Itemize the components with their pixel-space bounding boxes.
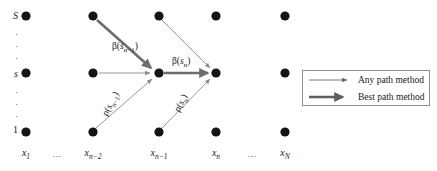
legend-label-any-path: Any path method xyxy=(355,75,424,85)
state-sub: n xyxy=(184,61,188,69)
y-axis-label-top: S xyxy=(0,11,18,21)
node xyxy=(88,127,97,136)
y-axis-dots-lower: · xyxy=(0,88,18,97)
node xyxy=(154,127,163,136)
node xyxy=(211,68,220,77)
x-axis-label-xn1: xn−1 xyxy=(139,148,179,161)
node xyxy=(88,68,97,77)
x-axis-ellipsis-left: … xyxy=(42,150,72,159)
greek-symbol: β xyxy=(172,56,177,66)
x-axis-ellipsis-right: … xyxy=(237,150,267,159)
x-axis-ellipsis-text: … xyxy=(248,149,257,159)
state-sub: n−1 xyxy=(124,46,135,54)
edge-label-beta-n-minus-1: β(sn−1) xyxy=(112,42,138,54)
node xyxy=(154,68,163,77)
legend-swatch-any-path xyxy=(307,73,355,87)
y-axis-dots-upper: · xyxy=(0,54,18,63)
node xyxy=(21,68,30,77)
y-axis-dots-lower: · xyxy=(0,100,18,109)
x-axis-label-xN: xN xyxy=(265,148,305,161)
legend: Any path method Best path method xyxy=(302,70,430,106)
x-axis-label-xn: xn xyxy=(196,148,236,161)
trellis-nodes xyxy=(21,11,289,136)
node xyxy=(280,127,289,136)
greek-symbol: β xyxy=(112,41,117,51)
legend-swatch-best-path xyxy=(307,90,355,104)
node xyxy=(211,11,220,20)
node xyxy=(280,68,289,77)
x-axis-ellipsis-text: … xyxy=(53,149,62,159)
x-axis-label-sub: n−2 xyxy=(89,152,102,161)
x-axis-label-sub: 1 xyxy=(26,152,30,161)
x-axis-label-sub: n xyxy=(216,152,220,161)
x-axis-label-sub: n−1 xyxy=(155,152,168,161)
node xyxy=(211,127,220,136)
x-axis-label-xn2: xn−2 xyxy=(73,148,113,161)
y-axis-label-bottom: 1 xyxy=(0,125,18,135)
node xyxy=(21,11,30,20)
node xyxy=(154,11,163,20)
y-axis-dots-upper: · xyxy=(0,42,18,51)
node xyxy=(280,11,289,20)
node xyxy=(88,11,97,20)
legend-label-best-path: Best path method xyxy=(355,92,425,102)
y-axis-label-middle: s xyxy=(0,69,18,79)
x-axis-label-x1: x1 xyxy=(6,148,46,161)
y-axis-dots-upper: · xyxy=(0,30,18,39)
legend-item-best-path: Best path method xyxy=(303,88,429,106)
node xyxy=(21,127,30,136)
figure-canvas: S · · · s · · · 1 x1 … xn−2 xn−1 xn … xN… xyxy=(0,0,437,171)
x-axis-label-sub: N xyxy=(285,152,290,161)
y-axis-dots-lower: · xyxy=(0,112,18,121)
edge-label-beta-n: β(sn) xyxy=(172,57,190,69)
legend-item-any-path: Any path method xyxy=(303,71,429,89)
